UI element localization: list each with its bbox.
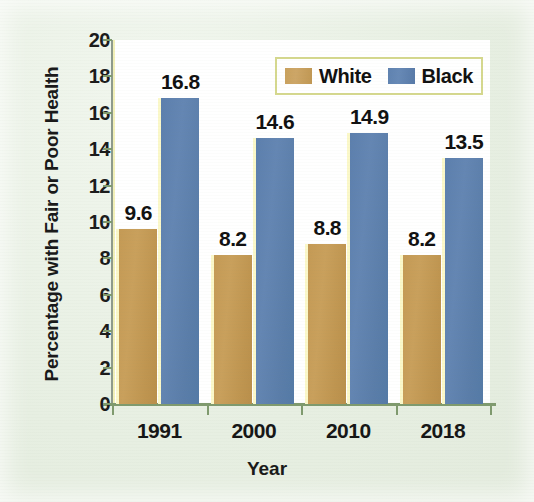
bar-fill: [214, 255, 252, 404]
legend-swatch-white-icon: [285, 68, 312, 84]
y-tick-mark: [103, 403, 112, 405]
bar-value-label: 16.8: [140, 70, 220, 94]
x-tick-mark: [490, 406, 492, 415]
y-tick-mark: [103, 330, 112, 332]
legend-label-white: White: [319, 65, 371, 88]
legend-entry-white: White: [285, 65, 371, 88]
bar-fill: [119, 229, 157, 404]
legend-label-black: Black: [422, 65, 473, 88]
bar-fill: [161, 98, 199, 404]
bar-black-2018: [445, 158, 483, 404]
x-tick-label-1991: 1991: [104, 419, 214, 443]
bar-black-2010: [350, 133, 388, 404]
bar-value-label: 13.5: [424, 130, 504, 154]
x-axis-title: Year: [0, 458, 534, 480]
bar-white-2000: [214, 255, 252, 404]
y-tick-mark: [103, 185, 112, 187]
legend-swatch-black-icon: [388, 68, 415, 84]
x-tick-mark: [207, 406, 209, 415]
bar-fill: [445, 158, 483, 404]
legend-entry-black: Black: [388, 65, 473, 88]
x-tick-label-2018: 2018: [388, 419, 498, 443]
x-tick-mark: [396, 406, 398, 415]
bar-white-2018: [403, 255, 441, 404]
bar-fill: [308, 244, 346, 404]
y-axis-title: Percentage with Fair or Poor Health: [41, 34, 63, 414]
y-tick-mark: [103, 257, 112, 259]
bar-white-2010: [308, 244, 346, 404]
bar-value-label: 9.6: [98, 201, 178, 225]
y-tick-mark: [103, 112, 112, 114]
x-tick-mark: [301, 406, 303, 415]
bar-fill: [256, 138, 294, 404]
bar-fill: [350, 133, 388, 404]
y-tick-mark: [103, 294, 112, 296]
y-tick-mark: [103, 367, 112, 369]
bar-white-1991: [119, 229, 157, 404]
x-tick-mark: [112, 406, 114, 415]
bar-chart-figure: 20181614121086420 9.616.88.214.68.814.98…: [0, 0, 534, 502]
chart-legend: White Black: [275, 57, 483, 95]
bar-fill: [403, 255, 441, 404]
bar-black-1991: [161, 98, 199, 404]
x-tick-label-2000: 2000: [199, 419, 309, 443]
y-tick-mark: [103, 39, 112, 41]
bar-value-label: 8.2: [193, 227, 273, 251]
y-tick-mark: [103, 148, 112, 150]
bar-black-2000: [256, 138, 294, 404]
bar-value-label: 14.6: [235, 110, 315, 134]
bar-value-label: 8.2: [382, 227, 462, 251]
y-tick-mark: [103, 75, 112, 77]
bar-value-label: 8.8: [287, 216, 367, 240]
bar-value-label: 14.9: [329, 105, 409, 129]
x-tick-label-2010: 2010: [293, 419, 403, 443]
